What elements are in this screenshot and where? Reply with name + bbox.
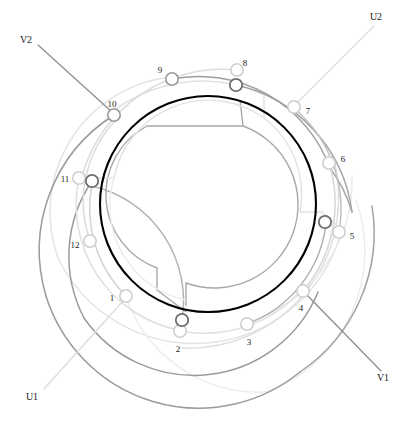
slot-label-3: 3 (247, 337, 252, 347)
slot-node-8[interactable] (231, 64, 243, 76)
terminal-lead-U1 (44, 300, 124, 389)
inner-winding-arcs (92, 96, 340, 312)
outer-arc-mid-bottom-right (247, 224, 326, 324)
outer-arc-light-node2 (180, 292, 300, 333)
terminal-lead-U2 (297, 26, 374, 103)
inner-arc-mid-ring (186, 126, 298, 306)
slot-node-4[interactable] (297, 285, 309, 297)
terminal-label-V2[interactable]: V2 (20, 34, 32, 45)
terminal-label-U2[interactable]: U2 (370, 11, 382, 22)
outer-arc-light-node8 (82, 69, 237, 176)
outer-arc-u-dark-bottom (46, 296, 300, 408)
terminal-lead-V2 (38, 45, 112, 112)
slot-label-10: 10 (108, 99, 118, 109)
slot-label-6: 6 (341, 154, 346, 164)
terminal-label-U1[interactable]: U1 (26, 391, 38, 402)
terminal-label-V1[interactable]: V1 (377, 372, 389, 383)
coil-node-cn-c[interactable] (176, 314, 188, 326)
slot-node-5[interactable] (333, 226, 345, 238)
slot-label-12: 12 (71, 240, 80, 250)
slot-node-3[interactable] (241, 318, 253, 330)
slot-node-9[interactable] (166, 73, 178, 85)
slot-node-12[interactable] (84, 235, 96, 247)
outer-arc-light-sweep-right (266, 200, 365, 392)
coil-node-cn-b[interactable] (86, 175, 98, 187)
slot-node-1[interactable] (120, 290, 132, 302)
slot-label-7: 7 (306, 106, 311, 116)
coil-node-cn-d[interactable] (319, 216, 331, 228)
diagram-canvas: 123456789101112 U1U2V1V2 (0, 0, 395, 427)
slot-node-7[interactable] (288, 101, 300, 113)
slot-label-9: 9 (158, 65, 163, 75)
slot-node-6[interactable] (323, 157, 335, 169)
coil-node-group (86, 79, 331, 326)
slot-label-2: 2 (176, 344, 181, 354)
slot-node-11[interactable] (73, 172, 85, 184)
slot-label-11: 11 (61, 174, 70, 184)
coil-node-cn-a[interactable] (230, 79, 242, 91)
slot-label-5: 5 (350, 231, 355, 241)
slot-node-10[interactable] (108, 109, 120, 121)
slot-label-8: 8 (243, 58, 248, 68)
winding-diagram-svg: 123456789101112 U1U2V1V2 (0, 0, 395, 427)
slot-label-1: 1 (110, 293, 115, 303)
slot-label-4: 4 (299, 303, 304, 313)
